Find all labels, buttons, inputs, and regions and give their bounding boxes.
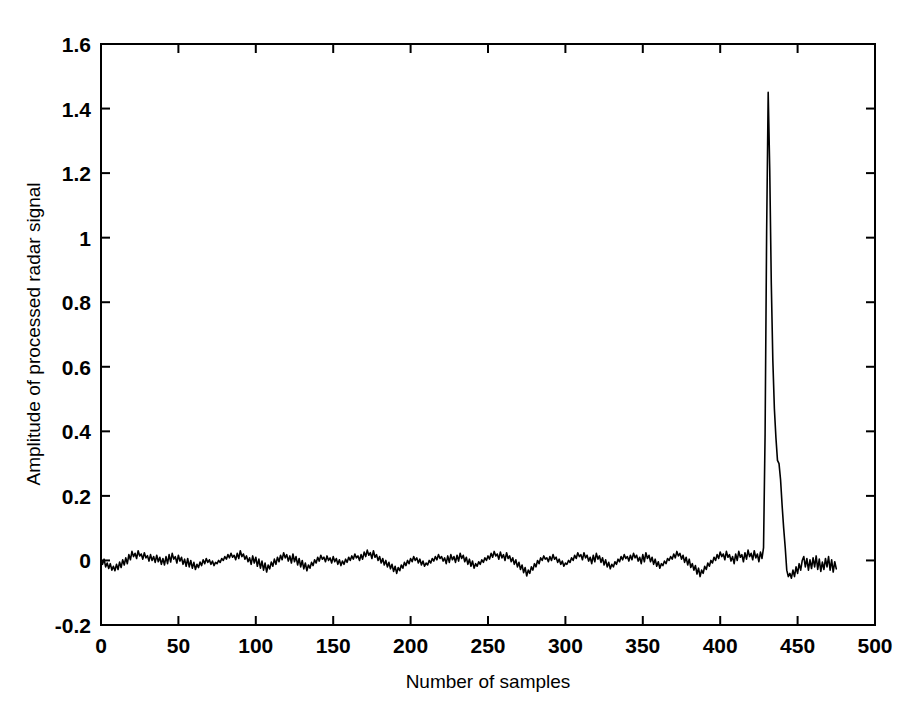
y-tick-label: 1.2: [62, 162, 91, 185]
y-tick-label: 0.4: [62, 420, 92, 443]
x-tick-label: 500: [857, 634, 892, 657]
y-tick-label: 0.6: [62, 356, 91, 379]
y-axis-title: Amplitude of processed radar signal: [23, 182, 44, 485]
x-tick-label: 350: [625, 634, 660, 657]
plot-canvas: 050100150200250300350400450500 -0.200.20…: [0, 0, 918, 716]
y-tick-label: 1.4: [62, 98, 92, 121]
y-tick-label: 1.6: [62, 33, 91, 56]
x-tick-label: 450: [780, 634, 815, 657]
x-tick-label: 400: [703, 634, 738, 657]
y-tick-label: -0.2: [55, 614, 91, 637]
x-tick-label: 200: [393, 634, 428, 657]
y-tick-label: 0.2: [62, 485, 91, 508]
x-tick-label: 250: [470, 634, 505, 657]
x-tick-label: 50: [167, 634, 190, 657]
y-tick-label: 1: [79, 227, 91, 250]
x-tick-label: 100: [238, 634, 273, 657]
y-tick-label: 0: [79, 549, 91, 572]
x-tick-label: 300: [548, 634, 583, 657]
radar-signal-figure: 050100150200250300350400450500 -0.200.20…: [0, 0, 918, 716]
figure-background: [0, 0, 918, 716]
x-tick-label: 0: [95, 634, 107, 657]
x-tick-label: 150: [316, 634, 351, 657]
y-tick-label: 0.8: [62, 291, 92, 314]
x-axis-title: Number of samples: [406, 671, 571, 692]
